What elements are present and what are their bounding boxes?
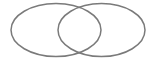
left-set-ellipse: [11, 4, 101, 57]
venn-diagram: [0, 0, 156, 60]
